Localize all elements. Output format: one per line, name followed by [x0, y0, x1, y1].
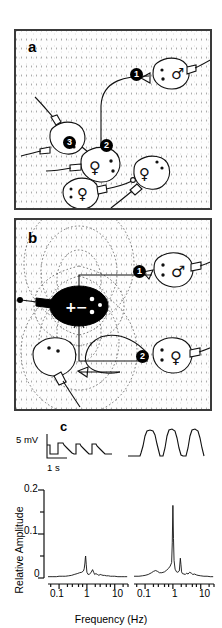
spectra-drawing — [0, 482, 222, 628]
svg-text:♀: ♀ — [89, 158, 101, 177]
traces-drawing — [0, 418, 222, 480]
marker-1-panel-a: 1 — [130, 68, 143, 81]
black-dipole-fish: + − — [17, 286, 108, 326]
marker-3-panel-a: 3 — [63, 136, 76, 149]
fish-left-marker-3 — [21, 97, 85, 156]
fish-female-right-bottom-b: ♀ — [153, 338, 212, 373]
left-voltage-trace — [47, 443, 112, 454]
panel-a-letter: a — [28, 39, 36, 54]
fish-male-top-right: ♂ — [153, 52, 212, 89]
white-fish-lower-left — [33, 338, 80, 407]
svg-text:−: − — [76, 299, 88, 315]
right-spectrum-curve — [134, 505, 213, 576]
svg-text:♀: ♀ — [77, 185, 88, 203]
panel-b-drawing: + − ♂ — [16, 220, 212, 411]
panel-a-drawing: ♂ ♀ ♀ — [16, 31, 212, 210]
right-voltage-trace — [128, 429, 204, 456]
marker-2-panel-b: 2 — [136, 350, 149, 363]
fish-female-center: ♀ — [46, 147, 120, 182]
svg-text:♀: ♀ — [170, 348, 182, 367]
marker-1-panel-b: 1 — [133, 265, 146, 278]
marker-2-panel-a: 2 — [100, 139, 113, 152]
svg-text:♂: ♂ — [171, 65, 184, 83]
panel-a-aquarium: ♂ ♀ ♀ — [14, 29, 212, 210]
left-spectrum-curve — [48, 556, 127, 577]
power-spectra-panel: Relative Amplitude Frequency (Hz) 0.2 0.… — [0, 482, 222, 628]
voltage-traces-panel: 5 mV 1 s c — [0, 418, 222, 480]
svg-text:+: + — [65, 299, 77, 315]
panel-b-aquarium: + − ♂ — [14, 218, 212, 411]
svg-text:♀: ♀ — [139, 165, 150, 183]
panel-b-letter: b — [28, 230, 37, 245]
fish-male-right-top-b: ♂ — [154, 253, 212, 287]
svg-text:♂: ♂ — [171, 262, 185, 281]
connector-1-to-2 — [101, 76, 149, 149]
